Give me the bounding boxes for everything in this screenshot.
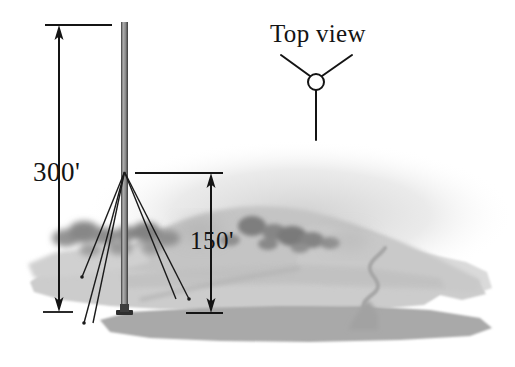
guy-anchor-left-far bbox=[82, 321, 86, 325]
top-view-hub-circle bbox=[308, 74, 324, 90]
dimension-300-label: 300' bbox=[33, 157, 80, 188]
dimension-150-label: 150' bbox=[190, 227, 234, 255]
figure-canvas: 300' 150' Top view bbox=[0, 0, 515, 367]
tree bbox=[108, 241, 132, 255]
tree bbox=[258, 238, 278, 250]
tree bbox=[142, 242, 162, 254]
terrain-group bbox=[28, 140, 515, 342]
tree bbox=[330, 231, 370, 249]
tower-mast bbox=[121, 22, 128, 313]
tree bbox=[238, 216, 266, 236]
top-view-leg-upper-left bbox=[281, 55, 310, 76]
top-view-diagram bbox=[281, 55, 352, 140]
top-view-leg-upper-right bbox=[322, 55, 352, 76]
guy-anchor-right bbox=[187, 297, 191, 301]
tree bbox=[79, 244, 101, 256]
tree bbox=[156, 230, 180, 246]
tower-base-stem bbox=[120, 304, 129, 312]
top-view-title: Top view bbox=[270, 20, 366, 48]
tree bbox=[291, 243, 309, 253]
terrain-foreground-shadow bbox=[100, 306, 492, 342]
guy-anchor-left-near bbox=[80, 275, 84, 279]
